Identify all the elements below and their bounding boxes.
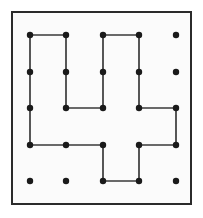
grid-dot-r4c2[interactable] [63, 142, 69, 148]
grid-dot-r3c3[interactable] [100, 105, 106, 111]
grid-dot-r5c2[interactable] [63, 178, 69, 184]
grid-dot-r3c1[interactable] [27, 105, 33, 111]
puzzle-graphic [0, 0, 203, 218]
grid-dot-r5c3[interactable] [100, 178, 106, 184]
grid-dot-r1c5[interactable] [173, 32, 179, 38]
grid-dot-r2c3[interactable] [100, 69, 106, 75]
grid-dot-r5c5[interactable] [173, 178, 179, 184]
grid-dot-r3c4[interactable] [136, 105, 142, 111]
grid-dot-r4c4[interactable] [136, 142, 142, 148]
grid-dot-r5c1[interactable] [27, 178, 33, 184]
grid-dot-r5c4[interactable] [136, 178, 142, 184]
grid-dot-r3c2[interactable] [63, 105, 69, 111]
grid-dot-r2c4[interactable] [136, 69, 142, 75]
grid-dot-r2c5[interactable] [173, 69, 179, 75]
grid-dot-r4c3[interactable] [100, 142, 106, 148]
grid-dot-r2c2[interactable] [63, 69, 69, 75]
grid-dot-r4c1[interactable] [27, 142, 33, 148]
grid-dot-r3c5[interactable] [173, 105, 179, 111]
grid-dot-r1c3[interactable] [100, 32, 106, 38]
grid-dot-r2c1[interactable] [27, 69, 33, 75]
grid-dot-r1c4[interactable] [136, 32, 142, 38]
figure-canvas [0, 0, 203, 218]
grid-dot-r1c2[interactable] [63, 32, 69, 38]
grid-dot-r4c5[interactable] [173, 142, 179, 148]
grid-dot-r1c1[interactable] [27, 32, 33, 38]
upper-inner-path [66, 35, 176, 181]
